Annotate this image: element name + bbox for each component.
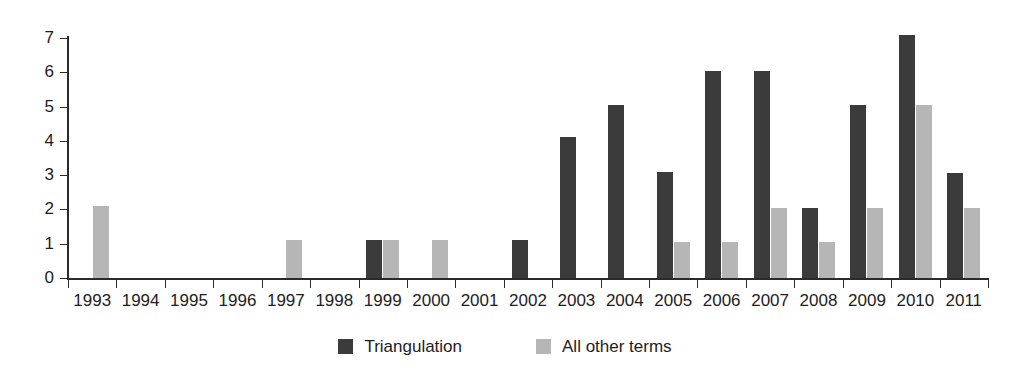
y-axis-tick — [60, 141, 68, 142]
x-axis-tick-label: 2009 — [843, 292, 891, 309]
bar — [802, 208, 818, 278]
y-axis-tick-label: 5 — [28, 98, 54, 115]
x-axis-tick — [504, 279, 505, 288]
x-axis-tick — [891, 279, 892, 288]
x-axis-tick-label: 1997 — [262, 292, 310, 309]
x-axis-tick — [455, 279, 456, 288]
bar — [754, 71, 770, 278]
x-axis-tick — [988, 279, 989, 288]
x-axis-tick — [601, 279, 602, 288]
bar — [432, 240, 448, 278]
legend-label: Triangulation — [364, 338, 462, 355]
legend-label: All other terms — [562, 338, 672, 355]
x-axis-tick — [552, 279, 553, 288]
y-axis-tick-label: 6 — [28, 63, 54, 80]
x-axis-tick-label: 1996 — [213, 292, 261, 309]
bar — [771, 208, 787, 278]
x-axis-tick — [68, 279, 69, 288]
y-axis-tick — [60, 244, 68, 245]
x-axis-tick-label: 1993 — [68, 292, 116, 309]
legend-item[interactable]: Triangulation — [338, 338, 462, 355]
y-axis-tick-label: 7 — [28, 29, 54, 46]
bar — [916, 105, 932, 278]
bar — [850, 105, 866, 278]
x-axis-tick — [843, 279, 844, 288]
x-axis-tick-label: 2005 — [649, 292, 697, 309]
x-axis-tick — [794, 279, 795, 288]
x-axis-tick-label: 1994 — [116, 292, 164, 309]
x-axis-tick-label: 2007 — [746, 292, 794, 309]
x-axis-tick — [165, 279, 166, 288]
bar — [512, 240, 528, 278]
plot-area — [68, 38, 988, 278]
legend-item[interactable]: All other terms — [536, 338, 672, 355]
y-axis-tick — [60, 107, 68, 108]
x-axis-tick — [359, 279, 360, 288]
x-axis-tick — [262, 279, 263, 288]
x-axis-tick — [213, 279, 214, 288]
legend-swatch-dark — [338, 339, 353, 354]
x-axis-tick-label: 2010 — [891, 292, 939, 309]
x-axis-line — [67, 278, 989, 280]
y-axis-tick — [60, 278, 68, 279]
y-axis-tick-label: 3 — [28, 166, 54, 183]
bar — [93, 206, 109, 278]
bar — [608, 105, 624, 278]
bar — [674, 242, 690, 278]
x-axis-tick-label: 2008 — [794, 292, 842, 309]
y-axis-tick-label: 0 — [28, 269, 54, 286]
chart-legend: TriangulationAll other terms — [0, 338, 1010, 355]
x-axis-tick — [940, 279, 941, 288]
legend-swatch-light — [536, 339, 551, 354]
x-axis-tick-label: 2001 — [455, 292, 503, 309]
y-axis-tick — [60, 38, 68, 39]
x-axis-tick-label: 2004 — [601, 292, 649, 309]
y-axis-tick-label: 1 — [28, 235, 54, 252]
y-axis-tick — [60, 209, 68, 210]
x-axis-tick-label: 2006 — [697, 292, 745, 309]
x-axis-tick-label: 2003 — [552, 292, 600, 309]
bar — [657, 172, 673, 278]
y-axis-tick-label: 2 — [28, 200, 54, 217]
bar — [819, 242, 835, 278]
bar — [947, 173, 963, 278]
bar — [383, 240, 399, 278]
bar — [722, 242, 738, 278]
x-axis-tick — [116, 279, 117, 288]
x-axis-tick — [310, 279, 311, 288]
bar — [560, 137, 576, 278]
x-axis-tick — [746, 279, 747, 288]
y-axis-tick-label: 4 — [28, 132, 54, 149]
x-axis-tick — [697, 279, 698, 288]
x-axis-tick-label: 1999 — [359, 292, 407, 309]
x-axis-tick-label: 2000 — [407, 292, 455, 309]
bar — [286, 240, 302, 278]
bar — [899, 35, 915, 278]
x-axis-tick — [649, 279, 650, 288]
x-axis-tick — [407, 279, 408, 288]
bar — [366, 240, 382, 278]
bar — [705, 71, 721, 278]
x-axis-tick-label: 1998 — [310, 292, 358, 309]
x-axis-tick-label: 2011 — [940, 292, 988, 309]
bar — [867, 208, 883, 278]
bar — [964, 208, 980, 278]
x-axis-tick-label: 1995 — [165, 292, 213, 309]
x-axis-tick-label: 2002 — [504, 292, 552, 309]
y-axis-tick — [60, 175, 68, 176]
y-axis-tick — [60, 72, 68, 73]
bar-chart: 01234567 1993199419951996199719981999200… — [0, 0, 1010, 375]
